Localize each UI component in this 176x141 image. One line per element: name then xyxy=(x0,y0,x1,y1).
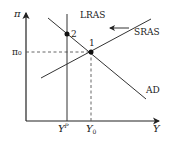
y0-sub: 0 xyxy=(93,128,97,135)
point-1-label: 1 xyxy=(89,38,95,48)
ad-curve xyxy=(48,18,146,99)
y-axis-label: π xyxy=(13,8,21,19)
pi0-tick-label: π₀ xyxy=(12,47,22,57)
ad-as-diagram: π Y π₀ YP Y0 LRAS SRAS AD 2 1 xyxy=(0,0,176,141)
yp-tick-label: YP xyxy=(58,122,70,134)
lras-label: LRAS xyxy=(80,10,105,20)
y0-tick-label: Y0 xyxy=(86,123,97,135)
point-2-label: 2 xyxy=(71,29,77,39)
yp-sup: P xyxy=(64,122,70,129)
equilibrium-point-1 xyxy=(89,50,94,55)
x-axis-label: Y xyxy=(153,123,161,134)
ad-label: AD xyxy=(145,85,160,95)
sras-label: SRAS xyxy=(134,27,160,37)
equilibrium-point-2 xyxy=(65,32,70,37)
